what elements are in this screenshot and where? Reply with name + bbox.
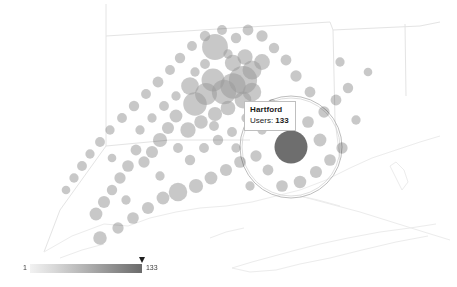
bubble[interactable] bbox=[256, 30, 267, 41]
bubble[interactable] bbox=[187, 41, 197, 51]
tooltip-metric: Users: 133 bbox=[250, 116, 289, 126]
bubble[interactable] bbox=[141, 89, 151, 99]
bubble[interactable] bbox=[227, 127, 237, 137]
bubble[interactable] bbox=[305, 87, 316, 98]
bubble[interactable] bbox=[269, 43, 279, 53]
bubble[interactable] bbox=[364, 68, 373, 77]
bubble[interactable] bbox=[223, 49, 232, 58]
bubble[interactable] bbox=[170, 110, 183, 123]
bubble[interactable] bbox=[171, 91, 180, 100]
bubble[interactable] bbox=[117, 113, 127, 123]
bubble[interactable] bbox=[200, 59, 210, 69]
bubble[interactable] bbox=[335, 57, 344, 66]
bubble[interactable] bbox=[90, 208, 103, 221]
bubble[interactable] bbox=[318, 106, 329, 117]
bubble[interactable] bbox=[276, 180, 288, 192]
bubble[interactable] bbox=[213, 135, 223, 145]
bubble[interactable] bbox=[231, 33, 241, 43]
bubble[interactable] bbox=[234, 156, 246, 168]
bubble[interactable] bbox=[250, 150, 261, 161]
tooltip-title: Hartford bbox=[250, 105, 289, 115]
bubble[interactable] bbox=[107, 185, 117, 195]
bubble[interactable] bbox=[185, 155, 195, 165]
bubble[interactable] bbox=[217, 25, 227, 35]
bubble[interactable] bbox=[243, 25, 254, 36]
bubble[interactable] bbox=[190, 67, 199, 76]
bubble[interactable] bbox=[254, 54, 270, 70]
bubble[interactable] bbox=[194, 115, 207, 128]
bubble[interactable] bbox=[220, 164, 232, 176]
bubble[interactable] bbox=[169, 183, 188, 202]
bubble[interactable] bbox=[146, 146, 158, 158]
bubble[interactable] bbox=[142, 202, 154, 214]
bubble[interactable] bbox=[105, 125, 114, 134]
bubble[interactable] bbox=[245, 181, 254, 190]
map-canvas[interactable] bbox=[0, 0, 457, 287]
bubble[interactable] bbox=[205, 172, 218, 185]
legend-gradient-bar[interactable] bbox=[30, 264, 142, 273]
bubble[interactable] bbox=[157, 192, 170, 205]
bubble[interactable] bbox=[129, 101, 139, 111]
bubble[interactable] bbox=[77, 161, 87, 171]
bubble[interactable] bbox=[153, 133, 167, 147]
bubble[interactable] bbox=[231, 143, 240, 152]
bubble[interactable] bbox=[221, 101, 236, 116]
bubble[interactable] bbox=[138, 156, 149, 167]
bubble[interactable] bbox=[209, 121, 219, 131]
bubble[interactable] bbox=[189, 179, 203, 193]
bubble[interactable] bbox=[302, 116, 314, 128]
bubble[interactable] bbox=[108, 154, 117, 163]
bubble[interactable] bbox=[208, 107, 222, 121]
bubble[interactable] bbox=[122, 160, 134, 172]
bubble[interactable] bbox=[95, 137, 105, 147]
bubble[interactable] bbox=[69, 173, 78, 182]
bubble[interactable] bbox=[162, 122, 174, 134]
bubble[interactable] bbox=[331, 95, 342, 106]
bubble[interactable] bbox=[180, 122, 195, 137]
bubble[interactable] bbox=[121, 195, 130, 204]
bubble[interactable] bbox=[114, 172, 125, 183]
bubble[interactable] bbox=[199, 143, 209, 153]
bubble[interactable] bbox=[314, 134, 327, 147]
map-tooltip: Hartford Users: 133 bbox=[244, 101, 296, 131]
bubble[interactable] bbox=[181, 77, 199, 95]
bubble[interactable] bbox=[135, 125, 144, 134]
bubble[interactable] bbox=[93, 231, 106, 244]
bubble[interactable] bbox=[98, 196, 110, 208]
bubble[interactable] bbox=[290, 70, 301, 81]
bubble[interactable] bbox=[165, 65, 175, 75]
bubble[interactable] bbox=[183, 92, 207, 116]
legend-min-label: 1 bbox=[23, 264, 27, 272]
tooltip-metric-value: 133 bbox=[275, 116, 288, 125]
bubble[interactable] bbox=[324, 154, 336, 166]
bubble[interactable] bbox=[336, 142, 347, 153]
bubble[interactable] bbox=[127, 212, 139, 224]
legend-bar-wrap[interactable] bbox=[30, 264, 142, 273]
bubble[interactable] bbox=[294, 176, 306, 188]
bubble[interactable] bbox=[62, 186, 71, 195]
bubble-selected[interactable] bbox=[275, 131, 308, 164]
bubble[interactable] bbox=[147, 113, 156, 122]
bubble-map-app: Hartford Users: 133 1 133 bbox=[0, 0, 457, 287]
bubble[interactable] bbox=[159, 101, 169, 111]
bubble[interactable] bbox=[112, 222, 123, 233]
bubble[interactable] bbox=[175, 53, 185, 63]
bubble[interactable] bbox=[281, 55, 292, 66]
bubble[interactable] bbox=[263, 165, 274, 176]
bubble[interactable] bbox=[351, 115, 360, 124]
bubble[interactable] bbox=[153, 77, 164, 88]
bubble[interactable] bbox=[343, 83, 353, 93]
legend-max-label: 133 bbox=[146, 264, 158, 272]
bubble[interactable] bbox=[200, 31, 210, 41]
bubble-size-legend[interactable]: 1 133 bbox=[23, 261, 158, 275]
bubble[interactable] bbox=[155, 171, 164, 180]
bubble[interactable] bbox=[310, 166, 322, 178]
tooltip-metric-label: Users: bbox=[250, 116, 273, 125]
bubble[interactable] bbox=[173, 143, 183, 153]
bubble[interactable] bbox=[85, 149, 94, 158]
bubble[interactable] bbox=[131, 145, 142, 156]
legend-marker-icon bbox=[139, 257, 145, 263]
